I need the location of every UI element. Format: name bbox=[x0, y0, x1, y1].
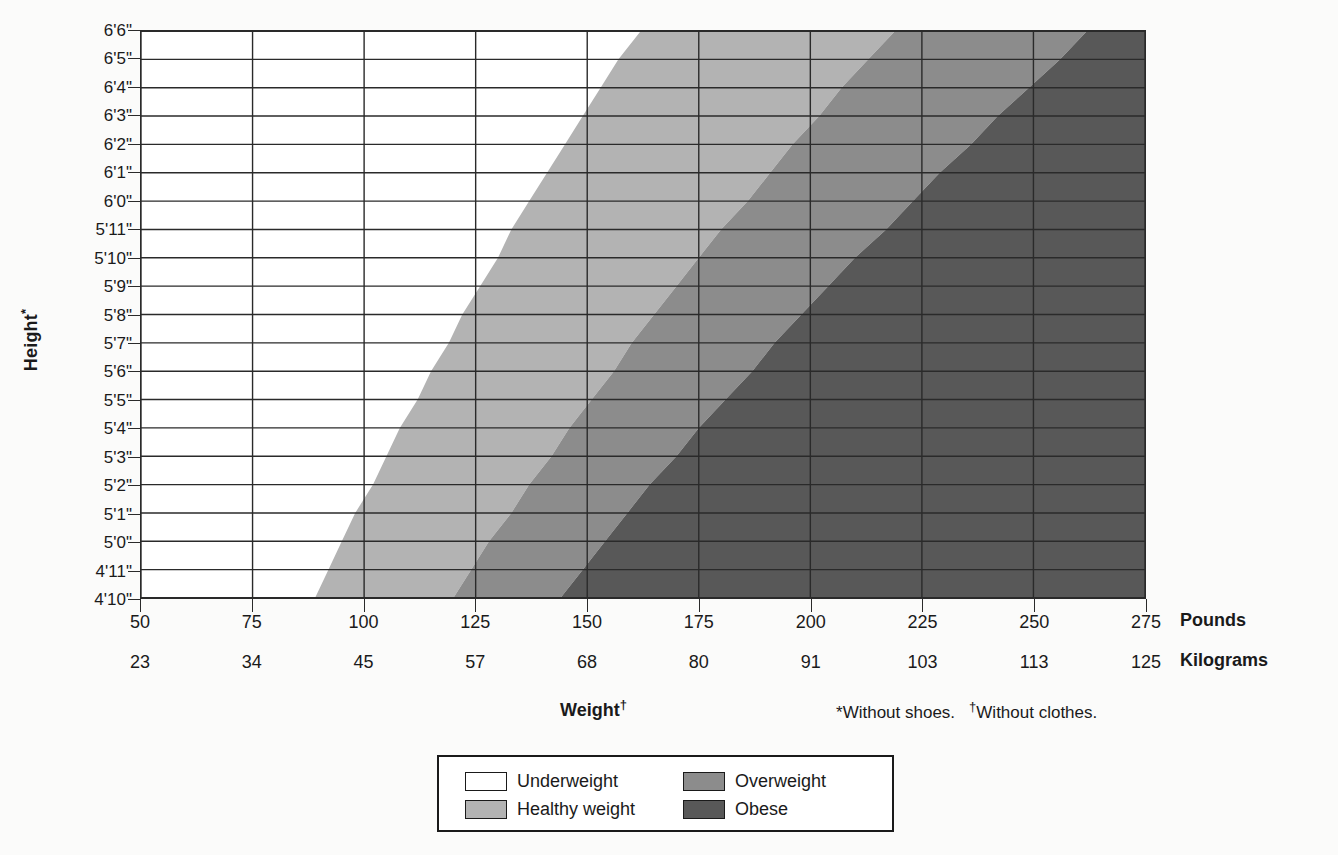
y-axis-tick bbox=[128, 428, 140, 429]
y-axis-tick bbox=[128, 457, 140, 458]
y-axis-tick-label: 6'2" bbox=[48, 135, 132, 152]
x-axis-tick bbox=[1034, 599, 1035, 612]
legend-item-underweight[interactable]: Underweight bbox=[465, 771, 683, 792]
x-axis-pounds-label: 100 bbox=[319, 612, 409, 633]
x-axis-pounds-label: 200 bbox=[766, 612, 856, 633]
footnote-shoes-marker: * bbox=[836, 703, 843, 722]
y-axis-tick bbox=[128, 201, 140, 202]
footnote-clothes-text: Without clothes. bbox=[976, 703, 1097, 722]
y-axis-tick-label: 6'0" bbox=[48, 192, 132, 209]
pounds-unit-label: Pounds bbox=[1180, 610, 1246, 631]
y-axis-tick bbox=[128, 87, 140, 88]
x-axis-title-text: Weight bbox=[560, 700, 620, 720]
y-axis-tick-label: 4'11" bbox=[48, 562, 132, 579]
y-axis-labels: 6'6"6'5"6'4"6'3"6'2"6'1"6'0"5'11"5'10"5'… bbox=[48, 30, 132, 599]
y-axis-tick-label: 6'1" bbox=[48, 164, 132, 181]
x-axis-kilograms-label: 45 bbox=[319, 652, 409, 673]
legend-swatch-healthy bbox=[465, 800, 507, 819]
y-axis-tick bbox=[128, 286, 140, 287]
x-axis-tick bbox=[811, 599, 812, 612]
y-axis-tick bbox=[128, 115, 140, 116]
x-axis-kilograms-label: 103 bbox=[877, 652, 967, 673]
y-axis-tick bbox=[128, 30, 140, 31]
y-axis-tick-label: 5'5" bbox=[48, 391, 132, 408]
x-axis-kilograms-label: 113 bbox=[989, 652, 1079, 673]
x-axis-kilograms-label: 34 bbox=[207, 652, 297, 673]
y-axis-tick bbox=[128, 58, 140, 59]
x-axis-tick bbox=[364, 599, 365, 612]
y-axis-tick bbox=[128, 599, 140, 600]
y-axis-tick bbox=[128, 371, 140, 372]
x-axis-pounds-label: 175 bbox=[654, 612, 744, 633]
x-axis-tick bbox=[140, 599, 141, 612]
legend-item-obese[interactable]: Obese bbox=[683, 799, 875, 820]
y-axis-tick-label: 5'0" bbox=[48, 534, 132, 551]
y-axis-tick bbox=[128, 258, 140, 259]
x-axis-kilograms-label: 68 bbox=[542, 652, 632, 673]
y-axis-tick-label: 4'10" bbox=[48, 591, 132, 608]
plot-area bbox=[140, 30, 1146, 599]
y-axis-tick-label: 5'3" bbox=[48, 448, 132, 465]
y-axis-tick bbox=[128, 172, 140, 173]
y-axis-tick-label: 6'6" bbox=[48, 22, 132, 39]
y-axis-footnote-marker: * bbox=[18, 309, 33, 314]
y-axis-tick-label: 5'9" bbox=[48, 278, 132, 295]
legend-label-healthy: Healthy weight bbox=[517, 799, 635, 820]
y-axis-tick bbox=[128, 343, 140, 344]
kilograms-unit-label: Kilograms bbox=[1180, 650, 1268, 671]
legend-swatch-overweight bbox=[683, 772, 725, 791]
legend-label-overweight: Overweight bbox=[735, 771, 826, 792]
x-axis-pounds-label: 50 bbox=[95, 612, 185, 633]
legend-item-overweight[interactable]: Overweight bbox=[683, 771, 875, 792]
legend-item-healthy[interactable]: Healthy weight bbox=[465, 799, 683, 820]
y-axis-tick-label: 5'7" bbox=[48, 334, 132, 351]
footnotes: *Without shoes.†Without clothes. bbox=[836, 699, 1097, 723]
y-axis-tick bbox=[128, 485, 140, 486]
x-axis-tick bbox=[699, 599, 700, 612]
x-axis-kilograms-label: 125 bbox=[1101, 652, 1191, 673]
x-axis-tick bbox=[1146, 599, 1147, 612]
y-axis-tick-label: 5'10" bbox=[48, 249, 132, 266]
y-axis-title: Height* bbox=[10, 270, 50, 410]
y-axis-tick-label: 5'11" bbox=[48, 221, 132, 238]
y-axis-tick-label: 5'8" bbox=[48, 306, 132, 323]
y-axis-tick bbox=[128, 229, 140, 230]
y-axis-tick-label: 5'4" bbox=[48, 420, 132, 437]
y-axis-tick bbox=[128, 400, 140, 401]
x-axis-tick bbox=[252, 599, 253, 612]
x-axis-tick bbox=[922, 599, 923, 612]
x-axis-tick bbox=[475, 599, 476, 612]
legend-grid: UnderweightOverweightHealthy weightObese bbox=[465, 767, 875, 823]
x-axis-tick bbox=[587, 599, 588, 612]
x-axis-kilograms-label: 57 bbox=[430, 652, 520, 673]
y-axis-tick-label: 6'4" bbox=[48, 78, 132, 95]
footnote-shoes-text: Without shoes. bbox=[843, 703, 955, 722]
x-axis-pounds-label: 225 bbox=[877, 612, 967, 633]
chart-canvas: Height* 6'6"6'5"6'4"6'3"6'2"6'1"6'0"5'11… bbox=[0, 0, 1338, 855]
x-axis-kilograms-label: 80 bbox=[654, 652, 744, 673]
x-axis-title: Weight† bbox=[560, 697, 627, 721]
y-axis-tick-label: 6'3" bbox=[48, 107, 132, 124]
gridlines bbox=[141, 31, 1145, 598]
y-axis-tick bbox=[128, 514, 140, 515]
y-axis-tick bbox=[128, 542, 140, 543]
y-axis-tick bbox=[128, 315, 140, 316]
y-axis-tick-label: 5'6" bbox=[48, 363, 132, 380]
x-axis-pounds-label: 125 bbox=[430, 612, 520, 633]
x-axis-footnote-marker: † bbox=[620, 697, 627, 712]
legend-swatch-obese bbox=[683, 800, 725, 819]
x-axis-pounds-label: 150 bbox=[542, 612, 632, 633]
x-axis-kilograms-label: 91 bbox=[766, 652, 856, 673]
x-axis-pounds-label: 250 bbox=[989, 612, 1079, 633]
y-axis-tick-label: 6'5" bbox=[48, 50, 132, 67]
x-axis-kilograms-label: 23 bbox=[95, 652, 185, 673]
legend-label-underweight: Underweight bbox=[517, 771, 618, 792]
y-axis-tick bbox=[128, 144, 140, 145]
y-axis-tick-label: 5'2" bbox=[48, 477, 132, 494]
legend-swatch-underweight bbox=[465, 772, 507, 791]
x-axis-pounds-label: 75 bbox=[207, 612, 297, 633]
y-axis-tick-label: 5'1" bbox=[48, 505, 132, 522]
legend: UnderweightOverweightHealthy weightObese bbox=[437, 755, 894, 832]
y-axis-title-text: Height bbox=[21, 314, 41, 371]
x-axis-pounds-label: 275 bbox=[1101, 612, 1191, 633]
